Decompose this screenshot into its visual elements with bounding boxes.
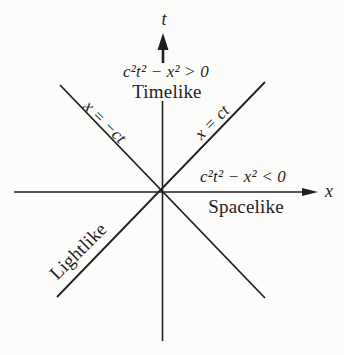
timelike-label: Timelike (132, 82, 202, 101)
diagram-canvas (0, 0, 344, 355)
timelike-equation: c²t² − x² > 0 (123, 63, 209, 80)
t-axis-label: t (161, 10, 166, 28)
t-axis-arrowhead-icon (158, 33, 169, 50)
spacelike-equation: c²t² − x² < 0 (200, 168, 286, 185)
spacelike-label: Spacelike (208, 197, 284, 216)
x-axis-arrowhead-icon (302, 188, 318, 196)
x-axis-label: x (325, 182, 333, 200)
spacetime-light-cone-diagram: t x c²t² − x² > 0 Timelike c²t² − x² < 0… (0, 0, 344, 355)
